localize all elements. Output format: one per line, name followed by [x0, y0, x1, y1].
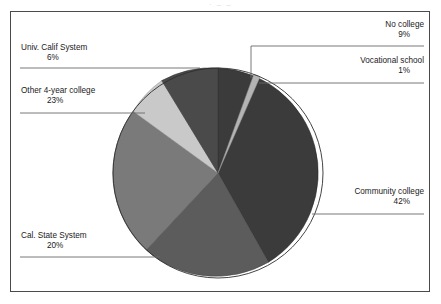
label-no-college-percent: 9%	[385, 30, 424, 40]
label-other-4year-college-percent: 23%	[21, 96, 95, 106]
label-other-4year-college: Other 4-year college 23%	[21, 86, 95, 106]
label-no-college: No college 9%	[385, 20, 424, 40]
chart-page: · – – No college 9%	[0, 0, 441, 304]
label-community-college-name: Community college	[354, 187, 424, 197]
label-cal-state-system: Cal. State System 20%	[21, 231, 87, 251]
label-community-college: Community college 42%	[354, 187, 424, 207]
label-univ-calif-system: Univ. Calif System 6%	[21, 43, 87, 63]
label-vocational-school: Vocational school 1%	[360, 56, 424, 76]
label-community-college-percent: 42%	[354, 197, 424, 207]
label-univ-calif-system-name: Univ. Calif System	[21, 43, 87, 53]
label-vocational-school-name: Vocational school	[360, 56, 424, 66]
label-univ-calif-system-percent: 6%	[21, 53, 87, 63]
label-cal-state-system-percent: 20%	[21, 241, 87, 251]
label-vocational-school-percent: 1%	[360, 66, 424, 76]
label-no-college-name: No college	[385, 20, 424, 30]
label-cal-state-system-name: Cal. State System	[21, 231, 87, 241]
label-other-4year-college-name: Other 4-year college	[21, 86, 95, 96]
